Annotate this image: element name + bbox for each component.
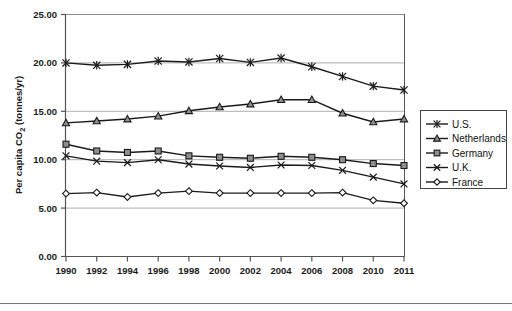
x-tick-label: 1994 xyxy=(117,265,139,276)
data-point-square-marker xyxy=(401,163,407,169)
y-tick-label: 25.00 xyxy=(33,9,57,20)
y-tick-label: 5.00 xyxy=(39,203,58,214)
data-point-square-marker xyxy=(434,150,440,156)
y-tick-label: 20.00 xyxy=(33,57,57,68)
legend-label: U.K. xyxy=(452,162,471,173)
data-point-square-marker xyxy=(155,148,161,154)
data-point-square-marker xyxy=(340,157,346,163)
x-tick-label: 2000 xyxy=(209,265,230,276)
y-axis-title-prefix: Per capita CO xyxy=(13,132,24,194)
data-point-square-marker xyxy=(186,153,192,159)
x-tick-label: 1996 xyxy=(148,265,169,276)
data-point-square-marker xyxy=(247,155,253,161)
data-point-square-marker xyxy=(370,161,376,167)
x-tick-label: 2002 xyxy=(240,265,261,276)
data-point-square-marker xyxy=(124,149,130,155)
x-tick-label: 1998 xyxy=(178,265,199,276)
data-point-square-marker xyxy=(63,141,69,147)
y-tick-label: 15.00 xyxy=(33,106,57,117)
x-tick-label: 2010 xyxy=(363,265,384,276)
x-tick-label: 1990 xyxy=(55,265,76,276)
y-axis-title-suffix: (tonnes/yr) xyxy=(13,76,24,128)
data-point-square-marker xyxy=(278,153,284,159)
data-point-square-marker xyxy=(217,154,223,160)
y-tick-label: 10.00 xyxy=(33,154,57,165)
co2-per-capita-line-chart: 25.00 20.00 15.00 10.00 5.00 0.00 Per ca… xyxy=(0,0,512,311)
x-tick-label: 1992 xyxy=(86,265,107,276)
x-tick-label: 2011 xyxy=(394,265,415,276)
data-point-square-marker xyxy=(309,154,315,160)
x-tick-label: 2008 xyxy=(332,265,353,276)
y-tick-label: 0.00 xyxy=(39,251,58,262)
x-tick-label: 2004 xyxy=(271,265,293,276)
legend-label: Germany xyxy=(452,148,493,159)
legend-label: France xyxy=(452,177,484,188)
data-point-square-marker xyxy=(94,148,100,154)
legend-label: U.S. xyxy=(452,119,471,130)
x-tick-label: 2006 xyxy=(301,265,322,276)
legend-label: Netherlands xyxy=(452,133,506,144)
